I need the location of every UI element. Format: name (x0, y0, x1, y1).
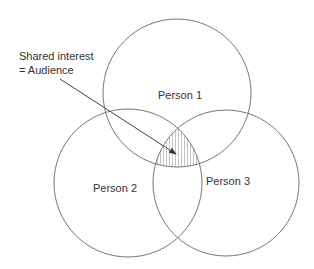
label-person-1: Person 1 (158, 89, 202, 101)
annotation-line-2: = Audience (19, 64, 74, 76)
annotation-line-1: Shared interest (19, 50, 94, 62)
label-person-2: Person 2 (93, 182, 137, 194)
label-person-3: Person 3 (206, 175, 250, 187)
venn-diagram: Person 1 Person 2 Person 3 Shared intere… (0, 0, 314, 269)
